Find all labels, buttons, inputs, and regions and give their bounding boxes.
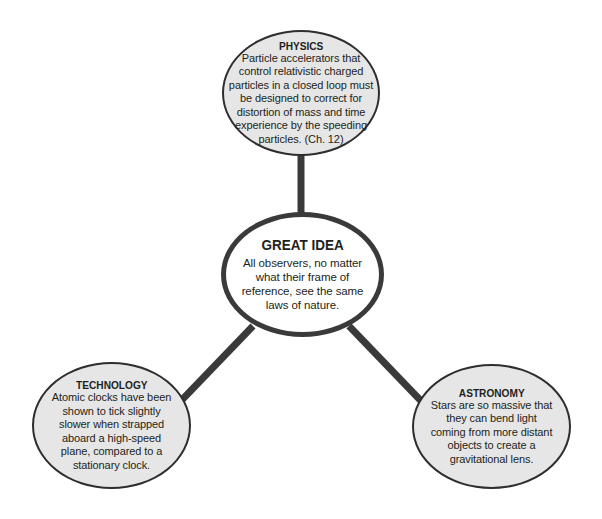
- physics-text: Particle accelerators that control relat…: [227, 52, 375, 147]
- astronomy-text: Stars are so massive that they can bend …: [428, 399, 556, 467]
- great-idea-title: GREAT IDEA: [261, 237, 343, 254]
- connector-center-technology: [178, 326, 253, 404]
- great-idea-text: All observers, no matter what their fram…: [240, 256, 365, 312]
- astronomy-node: ASTRONOMY Stars are so massive that they…: [412, 364, 571, 489]
- physics-node: PHYSICS Particle accelerators that contr…: [222, 30, 380, 156]
- technology-text: Atomic clocks have been shown to tick sl…: [48, 391, 176, 472]
- connector-center-astronomy: [349, 326, 424, 404]
- physics-title: PHYSICS: [279, 40, 323, 52]
- astronomy-title: ASTRONOMY: [459, 387, 525, 399]
- concept-map-diagram: PHYSICS Particle accelerators that contr…: [0, 0, 602, 519]
- technology-title: TECHNOLOGY: [76, 379, 147, 391]
- great-idea-node: GREAT IDEA All observers, no matter what…: [221, 212, 384, 337]
- technology-node: TECHNOLOGY Atomic clocks have been shown…: [32, 362, 191, 489]
